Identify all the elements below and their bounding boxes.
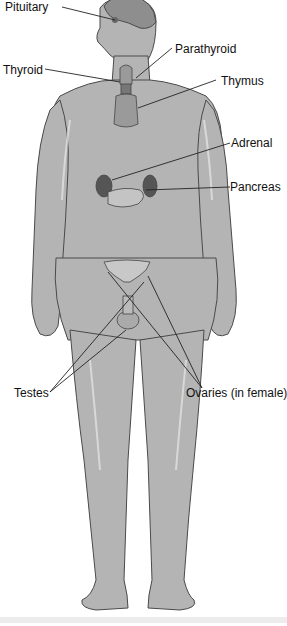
thyroid-gland (120, 65, 132, 86)
caption-strip (0, 617, 287, 623)
label-adrenal: Adrenal (231, 136, 272, 150)
label-pituitary: Pituitary (5, 0, 48, 14)
body-illustration (0, 0, 287, 626)
label-parathyroid: Parathyroid (175, 42, 236, 56)
label-pancreas: Pancreas (230, 180, 281, 194)
endocrine-diagram: Pituitary Parathyroid Thyroid Thymus Adr… (0, 0, 287, 626)
label-ovaries: Ovaries (in female) (186, 386, 287, 400)
thymus-gland (114, 94, 138, 127)
pancreas-organ (108, 188, 144, 207)
label-thymus: Thymus (221, 74, 264, 88)
label-testes: Testes (14, 386, 49, 400)
right-kidney-adrenal (143, 175, 157, 197)
label-thyroid: Thyroid (3, 63, 43, 77)
